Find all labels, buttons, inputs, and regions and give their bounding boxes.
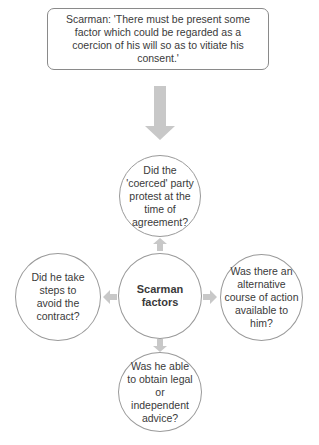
factor-legal-advice-circle: Was he able to obtain legal or independe… bbox=[118, 352, 202, 432]
scarman-factors-center-circle: Scarman factors bbox=[118, 253, 202, 339]
factor-protest-text: Did the 'coerced' party protest at the t… bbox=[125, 164, 195, 229]
arrow-down-large-icon bbox=[145, 86, 175, 140]
arrow-up-icon bbox=[153, 238, 167, 251]
factor-legal-advice-text: Was he able to obtain legal or independe… bbox=[127, 360, 193, 425]
factor-alternative-course-circle: Was there an alternative course of actio… bbox=[220, 254, 303, 341]
factor-alternative-course-text: Was there an alternative course of actio… bbox=[223, 265, 300, 330]
factor-protest-circle: Did the 'coerced' party protest at the t… bbox=[119, 155, 201, 237]
arrow-down-icon bbox=[153, 339, 167, 352]
arrow-left-icon bbox=[103, 290, 117, 304]
factor-avoid-contract-text: Did he take steps to avoid the contract? bbox=[28, 271, 88, 323]
scarman-quote-text: Scarman: 'There must be present some fac… bbox=[62, 13, 254, 65]
factor-avoid-contract-circle: Did he take steps to avoid the contract? bbox=[15, 253, 101, 341]
center-label: Scarman factors bbox=[135, 283, 185, 309]
scarman-quote-box: Scarman: 'There must be present some fac… bbox=[47, 8, 269, 70]
arrow-right-icon bbox=[203, 290, 217, 304]
